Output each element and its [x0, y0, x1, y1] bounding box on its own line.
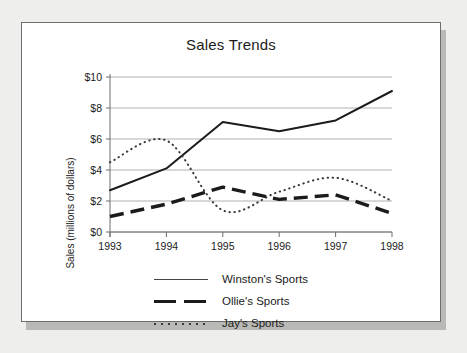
- axis-lines: [110, 74, 392, 237]
- x-axis-tick-label: 1995: [211, 240, 235, 252]
- data-series-group: [110, 91, 392, 217]
- chart-card: Sales Trends $0$2$4$6$8$10 1993199419951…: [21, 22, 441, 322]
- series-line-winston-s-sports: [110, 91, 392, 190]
- dashed-line-key: [152, 295, 210, 307]
- y-axis-tick-label: $2: [90, 195, 102, 207]
- legend-item-winstons: Winston's Sports: [152, 268, 412, 290]
- y-axis-tick-label: $6: [90, 133, 102, 145]
- dotted-line-key: [152, 317, 210, 329]
- x-axis-tick-label: 1996: [268, 240, 292, 252]
- x-axis-tick-label: 1994: [155, 240, 179, 252]
- solid-line-key: [152, 273, 210, 285]
- x-axis-tick-label: 1993: [98, 240, 122, 252]
- legend-label-ollies: Ollie's Sports: [222, 295, 289, 307]
- legend-label-jays: Jay's Sports: [222, 317, 284, 329]
- legend-label-winstons: Winston's Sports: [222, 273, 308, 285]
- y-axis-title: Sales (millions of dollars): [65, 157, 76, 268]
- gridlines: [106, 77, 392, 232]
- x-axis-tick-labels: 199319941995199619971998: [98, 240, 404, 252]
- series-line-ollie-s-sports: [110, 187, 392, 216]
- y-axis-tick-labels: $0$2$4$6$8$10: [84, 71, 102, 238]
- y-axis-tick-label: $10: [84, 71, 102, 83]
- y-axis-tick-label: $0: [90, 226, 102, 238]
- chart-legend: Winston's Sports Ollie's Sports Jay's Sp…: [152, 268, 412, 334]
- y-axis-tick-label: $8: [90, 102, 102, 114]
- y-axis-tick-label: $4: [90, 164, 102, 176]
- legend-item-ollies: Ollie's Sports: [152, 290, 412, 312]
- legend-item-jays: Jay's Sports: [152, 312, 412, 334]
- x-axis-tick-label: 1997: [324, 240, 348, 252]
- x-axis-tick-label: 1998: [380, 240, 404, 252]
